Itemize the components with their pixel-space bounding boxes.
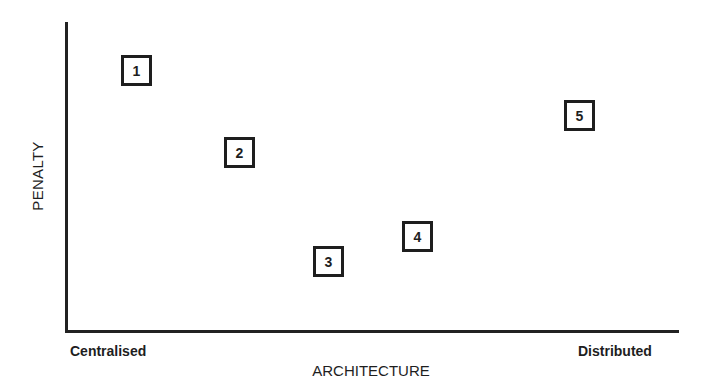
marker-box-1: 1 — [121, 55, 152, 86]
y-axis-line — [65, 22, 68, 333]
marker-box-2: 2 — [224, 137, 255, 168]
x-axis-line — [65, 330, 679, 333]
marker-box-5: 5 — [564, 100, 595, 131]
marker-box-3: 3 — [313, 246, 344, 277]
x-axis-title: ARCHITECTURE — [312, 362, 430, 379]
y-axis-title: PENALTY — [29, 141, 46, 210]
x-axis-left-label: Centralised — [70, 343, 146, 359]
x-axis-right-label: Distributed — [578, 343, 652, 359]
marker-box-4: 4 — [402, 221, 433, 252]
